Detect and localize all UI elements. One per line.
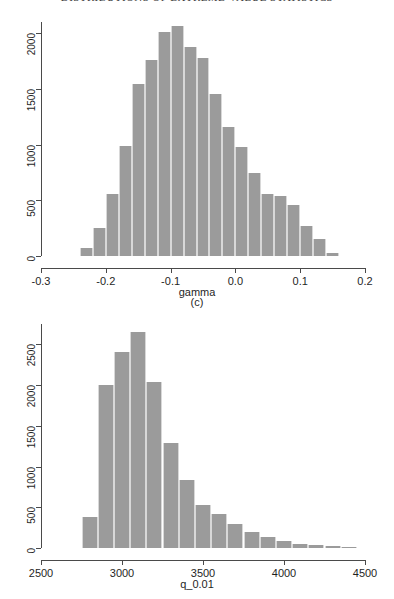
- histogram-bar: [227, 524, 243, 548]
- histogram-bar: [163, 443, 179, 548]
- histogram-bar: [292, 544, 308, 548]
- histogram-bar: [341, 547, 357, 548]
- figure-panel-q001: 05001000150020002500 2500300035004000450…: [0, 316, 394, 599]
- x-tick: [41, 560, 42, 565]
- histogram-bar: [248, 173, 261, 256]
- x-tick: [365, 268, 366, 273]
- histogram-bar: [326, 253, 339, 256]
- histogram-bar: [82, 517, 98, 548]
- histogram-bar: [184, 47, 197, 256]
- histogram-bar: [300, 226, 313, 256]
- histogram-bar: [93, 228, 106, 256]
- x-tick: [122, 560, 123, 565]
- figure-panel-gamma: 0500100015002000 -0.3-0.2-0.10.00.10.2 g…: [0, 14, 394, 292]
- histogram-bar: [222, 127, 235, 256]
- histogram-bar: [171, 26, 184, 256]
- panel-caption-c: (c): [0, 296, 394, 308]
- histogram-bars-q001: [41, 324, 365, 548]
- histogram-bar: [80, 248, 93, 256]
- x-axis-gamma: -0.3-0.2-0.10.00.10.2: [41, 268, 365, 269]
- histogram-bar: [146, 382, 162, 548]
- histogram-bar: [130, 332, 146, 548]
- histogram-bar: [119, 146, 132, 256]
- x-axis-title-q001: q_0.01: [0, 578, 394, 590]
- histogram-bars-gamma: [41, 22, 365, 256]
- histogram-bar: [211, 514, 227, 548]
- histogram-bar: [132, 84, 145, 256]
- histogram-bar: [98, 385, 114, 548]
- plot-area-gamma: 0500100015002000: [41, 22, 365, 256]
- histogram-bar: [260, 537, 276, 548]
- histogram-bar: [114, 352, 130, 548]
- histogram-bar: [235, 147, 248, 256]
- histogram-bar: [197, 58, 210, 256]
- x-tick: [41, 268, 42, 273]
- x-tick: [203, 560, 204, 565]
- histogram-bar: [145, 60, 158, 256]
- x-tick: [235, 268, 236, 273]
- histogram-bar: [179, 480, 195, 548]
- histogram-bar: [313, 239, 326, 256]
- x-tick: [171, 268, 172, 273]
- histogram-bar: [106, 194, 119, 256]
- x-tick: [300, 268, 301, 273]
- histogram-bar: [209, 94, 222, 256]
- histogram-bar: [308, 545, 324, 548]
- histogram-bar: [276, 541, 292, 548]
- x-tick: [284, 560, 285, 565]
- histogram-bar: [158, 32, 171, 256]
- x-tick: [365, 560, 366, 565]
- x-tick: [106, 268, 107, 273]
- histogram-bar: [244, 532, 260, 548]
- x-axis-q001: 25003000350040004500: [41, 560, 365, 561]
- histogram-bar: [274, 196, 287, 256]
- histogram-bar: [261, 194, 274, 256]
- histogram-bar: [195, 505, 211, 548]
- running-head: DISTRIBUTIONS OF EXTREME-VALUE STATISTIC…: [0, 0, 394, 5]
- plot-area-q001: 05001000150020002500: [41, 324, 365, 548]
- histogram-bar: [325, 546, 341, 548]
- histogram-bar: [287, 205, 300, 256]
